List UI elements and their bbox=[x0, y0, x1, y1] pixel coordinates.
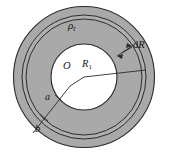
label-rho-subscript: r bbox=[73, 25, 75, 33]
label-radius-R1: R1 bbox=[82, 59, 92, 70]
label-rho-r: ρr bbox=[68, 20, 76, 31]
annulus-figure: ρr dR O R1 a b bbox=[0, 0, 169, 155]
label-radius-b: b bbox=[35, 124, 40, 135]
annulus-diagram-svg bbox=[0, 0, 169, 155]
label-radius-a: a bbox=[45, 92, 50, 102]
label-dR: dR bbox=[133, 40, 145, 51]
label-dR-R: R bbox=[138, 39, 144, 50]
label-R1-subscript: 1 bbox=[88, 63, 91, 70]
label-center-O: O bbox=[63, 61, 71, 72]
